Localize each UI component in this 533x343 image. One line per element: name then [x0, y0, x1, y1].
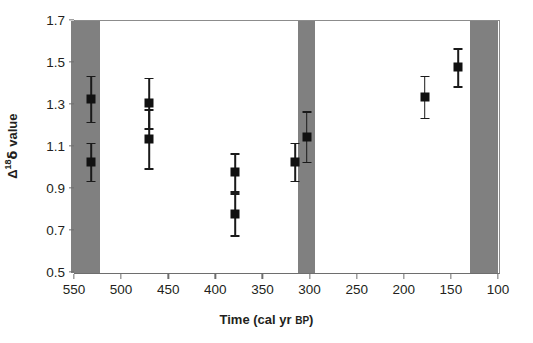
shaded-band-1 [71, 21, 99, 273]
error-bar-cap-upper [291, 143, 300, 145]
y-axis-title-word: value [5, 113, 20, 150]
x-axis-tick-label: 450 [157, 282, 180, 297]
y-axis-tick-label: 0.7 [46, 223, 65, 238]
data-marker[interactable] [145, 134, 154, 143]
x-axis-tick-label: 150 [440, 282, 463, 297]
x-axis-title-close: ) [309, 312, 313, 327]
x-axis-title-smallcaps: BP [295, 315, 309, 326]
y-axis-tick [69, 19, 74, 20]
data-marker[interactable] [231, 168, 240, 177]
data-marker[interactable] [231, 210, 240, 219]
error-bar-cap-upper [231, 193, 240, 195]
y-axis-tick [69, 229, 74, 230]
data-marker[interactable] [454, 63, 463, 72]
y-axis-tick [69, 271, 74, 272]
y-axis-tick-label: 0.9 [46, 181, 65, 196]
y-axis-tick [69, 61, 74, 62]
error-bar-cap-lower [145, 168, 154, 170]
x-axis-tick [497, 274, 498, 279]
x-axis-tick [215, 274, 216, 279]
x-axis-tick [168, 274, 169, 279]
y-axis-tick-label: 0.5 [46, 265, 65, 280]
error-bar-cap-lower [302, 162, 311, 164]
x-axis-tick-label: 100 [487, 282, 510, 297]
x-axis-tick [450, 274, 451, 279]
chart-figure: Δ18δ value Time (cal yr BP) 550500450400… [0, 0, 533, 343]
data-marker[interactable] [302, 132, 311, 141]
data-marker[interactable] [420, 92, 429, 101]
x-axis-tick [309, 274, 310, 279]
error-bar-cap-upper [87, 76, 96, 78]
shaded-band-3 [470, 21, 498, 273]
y-axis-superscript: 18 [4, 159, 14, 169]
x-axis-tick-label: 350 [251, 282, 274, 297]
y-axis-delta-lower: δ [5, 150, 20, 159]
error-bar-cap-lower [87, 181, 96, 183]
y-axis-title: Δ18δ value [2, 0, 22, 292]
error-bar-cap-lower [231, 235, 240, 237]
x-axis-tick [356, 274, 357, 279]
y-axis-tick-label: 1.1 [46, 139, 65, 154]
error-bar-cap-upper [420, 76, 429, 78]
x-axis-tick [120, 274, 121, 279]
data-marker[interactable] [87, 157, 96, 166]
x-axis-tick [403, 274, 404, 279]
x-axis-tick-label: 250 [345, 282, 368, 297]
x-axis-tick-label: 550 [63, 282, 86, 297]
x-axis-title-main: Time (cal yr [220, 312, 296, 327]
error-bar-cap-lower [291, 181, 300, 183]
y-axis-tick-label: 1.7 [46, 13, 65, 28]
error-bar-cap-lower [454, 86, 463, 88]
x-axis-tick [73, 274, 74, 279]
data-marker[interactable] [145, 98, 154, 107]
error-bar-cap-upper [454, 48, 463, 50]
y-axis-tick [69, 145, 74, 146]
x-axis-tick-label: 200 [393, 282, 416, 297]
x-axis-tick [262, 274, 263, 279]
error-bar-cap-lower [420, 118, 429, 120]
error-bar-cap-upper [145, 78, 154, 80]
data-marker[interactable] [87, 94, 96, 103]
error-bar-cap-upper [87, 143, 96, 145]
error-bar-cap-upper [145, 109, 154, 111]
y-axis-tick [69, 103, 74, 104]
y-axis-delta-upper: Δ [5, 169, 20, 178]
x-axis-title: Time (cal yr BP) [0, 312, 533, 327]
x-axis-tick-label: 500 [110, 282, 133, 297]
x-axis-tick-label: 400 [204, 282, 227, 297]
data-marker[interactable] [291, 157, 300, 166]
plot-area [74, 20, 500, 274]
error-bar-cap-lower [87, 122, 96, 124]
x-axis-tick-label: 300 [298, 282, 321, 297]
y-axis-tick-label: 1.5 [46, 55, 65, 70]
error-bar-cap-upper [302, 111, 311, 113]
error-bar-cap-upper [231, 153, 240, 155]
y-axis-tick-label: 1.3 [46, 97, 65, 112]
y-axis-tick [69, 187, 74, 188]
